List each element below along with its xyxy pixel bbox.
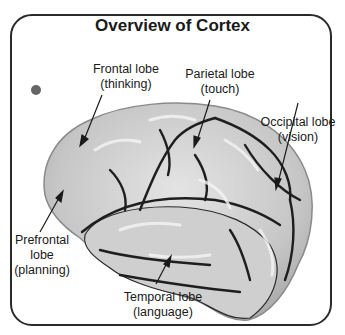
brain-illustration <box>0 0 345 335</box>
temporal-lobe-name: Temporal lobe <box>108 290 218 305</box>
prefrontal-lobe-name-line2: lobe <box>10 248 74 263</box>
temporal-lobe-label: Temporal lobe (language) <box>108 290 218 320</box>
occipital-lobe-name: Occipital lobe <box>248 115 345 130</box>
ink-spot <box>31 85 41 95</box>
temporal-lobe-function: (language) <box>108 305 218 320</box>
parietal-lobe-name: Parietal lobe <box>170 67 270 82</box>
parietal-lobe-function: (touch) <box>170 82 270 97</box>
prefrontal-lobe-name-line1: Prefrontal <box>10 233 74 248</box>
prefrontal-lobe-function: (planning) <box>10 263 74 278</box>
occipital-lobe-label: Occipital lobe (vision) <box>248 115 345 145</box>
frontal-lobe-label: Frontal lobe (thinking) <box>76 62 176 92</box>
frontal-lobe-function: (thinking) <box>76 77 176 92</box>
occipital-lobe-function: (vision) <box>248 130 345 145</box>
parietal-lobe-label: Parietal lobe (touch) <box>170 67 270 97</box>
prefrontal-lobe-label: Prefrontal lobe (planning) <box>10 233 74 278</box>
frontal-lobe-name: Frontal lobe <box>76 62 176 77</box>
